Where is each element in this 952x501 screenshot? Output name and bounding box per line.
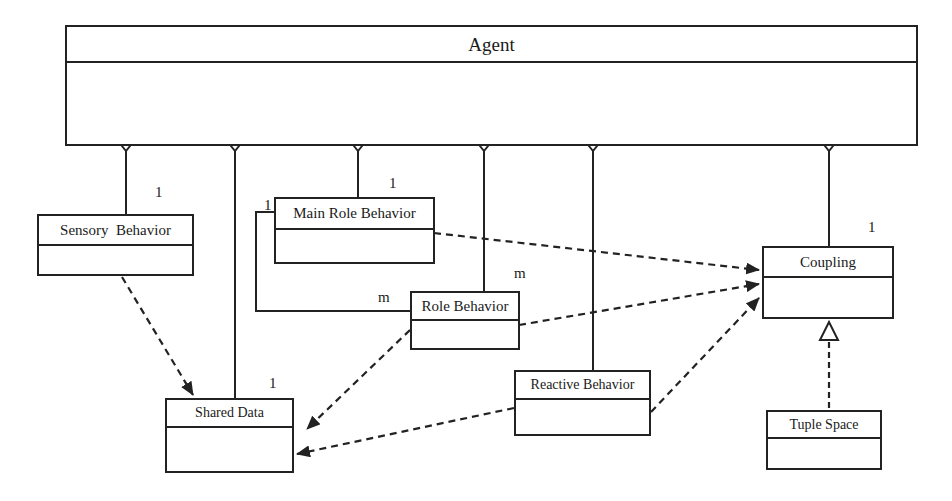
dependency-sensory-to-shared-data xyxy=(122,277,193,395)
class-role-behavior[interactable]: Role Behavior xyxy=(410,291,520,350)
class-main-role-behavior-title: Main Role Behavior xyxy=(276,199,433,230)
class-reactive-behavior[interactable]: Reactive Behavior xyxy=(514,370,651,436)
class-sensory-behavior-title: Sensory Behavior xyxy=(39,216,192,246)
dependency-role-to-shared-data xyxy=(307,330,410,429)
dependency-reactive-to-shared-data xyxy=(297,408,514,454)
multiplicity-main-role-left: 1 xyxy=(264,198,272,213)
dependency-main-role-to-coupling xyxy=(434,233,759,270)
class-tuple-space-title: Tuple Space xyxy=(768,412,880,439)
class-main-role-behavior[interactable]: Main Role Behavior xyxy=(274,197,435,264)
multiplicity-role-from-agent: m xyxy=(514,266,526,281)
class-agent-title: Agent xyxy=(67,27,916,63)
class-coupling-title: Coupling xyxy=(764,248,892,278)
multiplicity-shared-data: 1 xyxy=(269,376,277,391)
class-agent[interactable]: Agent xyxy=(65,25,918,146)
class-shared-data-title: Shared Data xyxy=(167,400,292,428)
realization-triangle-icon xyxy=(820,322,838,340)
dependency-reactive-to-coupling xyxy=(651,298,759,412)
multiplicity-role-from-main: m xyxy=(378,290,390,305)
class-tuple-space[interactable]: Tuple Space xyxy=(766,410,882,470)
multiplicity-coupling: 1 xyxy=(868,220,876,235)
dependency-role-to-coupling xyxy=(519,284,759,325)
multiplicity-main-role-top: 1 xyxy=(389,176,397,191)
class-role-behavior-title: Role Behavior xyxy=(412,293,518,321)
class-sensory-behavior[interactable]: Sensory Behavior xyxy=(37,214,194,276)
class-coupling[interactable]: Coupling xyxy=(762,246,894,319)
multiplicity-sensory: 1 xyxy=(155,185,163,200)
class-shared-data[interactable]: Shared Data xyxy=(165,398,294,473)
class-reactive-behavior-title: Reactive Behavior xyxy=(516,372,649,400)
